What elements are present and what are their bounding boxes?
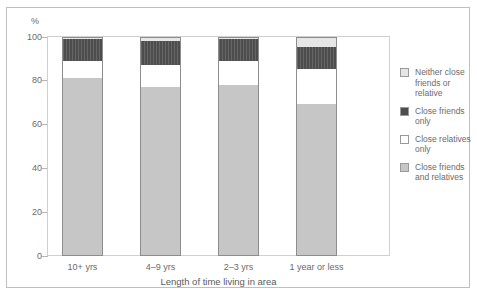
stacked-bar — [62, 37, 103, 256]
legend-item: Close friends only — [400, 106, 474, 127]
bar-segment-both — [296, 104, 337, 255]
x-axis-title: Length of time living in area — [47, 276, 390, 287]
bar-segment-relatives — [218, 61, 259, 85]
bar-segment-friends — [140, 41, 181, 65]
chart-root: % 100806040200 10+ yrs4–9 yrs2–3 yrs1 ye… — [0, 0, 477, 296]
y-axis: 100806040200 — [4, 0, 42, 296]
legend-item: Close relatives only — [400, 134, 474, 155]
stacked-bar — [296, 37, 337, 256]
legend-item: Close friends and relatives — [400, 162, 474, 183]
bar-segment-friends — [218, 39, 259, 61]
bar-segment-friends — [296, 47, 337, 69]
y-tick-label: 80 — [12, 75, 42, 85]
legend-label: Close friends only — [415, 106, 465, 127]
bar-segment-both — [140, 87, 181, 256]
legend-swatch-icon — [400, 135, 409, 144]
bar-segment-neither — [62, 37, 103, 39]
y-tick-label: 0 — [12, 251, 42, 261]
stacked-bar — [140, 37, 181, 256]
x-tick-label: 1 year or less — [262, 262, 372, 272]
bar-segment-friends — [62, 39, 103, 61]
bar-segment-neither — [296, 37, 337, 48]
bar-segment-neither — [140, 37, 181, 41]
legend-swatch-icon — [400, 163, 409, 172]
bar-segment-both — [62, 78, 103, 255]
bar-segment-neither — [218, 37, 259, 39]
bar-segment-relatives — [296, 69, 337, 104]
chart-legend: Neither close friends or relativeClose f… — [400, 67, 474, 190]
y-tick-label: 40 — [12, 163, 42, 173]
y-tick-label: 20 — [12, 207, 42, 217]
legend-swatch-icon — [400, 68, 409, 77]
stacked-bar — [218, 37, 259, 256]
legend-item: Neither close friends or relative — [400, 67, 474, 99]
bar-segment-relatives — [62, 61, 103, 79]
bar-segment-relatives — [140, 65, 181, 87]
y-tick-label: 100 — [12, 32, 42, 42]
bar-segment-both — [218, 85, 259, 256]
legend-swatch-icon — [400, 107, 409, 116]
y-tick-label: 60 — [12, 119, 42, 129]
legend-label: Neither close friends or relative — [415, 67, 465, 98]
legend-label: Close relatives only — [415, 134, 471, 155]
legend-label: Close friends and relatives — [415, 162, 465, 183]
